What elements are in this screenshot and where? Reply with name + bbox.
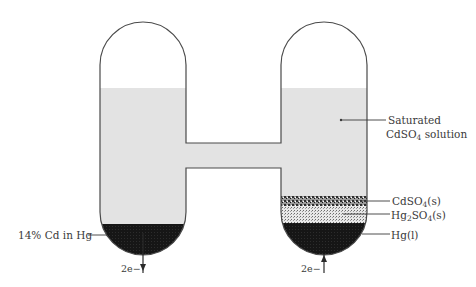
left-solution [100, 88, 186, 224]
hg2so4-solid-label: Hg2SO4(s) [391, 209, 446, 223]
saturated-label-line2: CdSO4 solution [386, 128, 467, 142]
saturated-leader-dot [340, 119, 342, 121]
mercury-liquid-label: Hg(l) [391, 229, 418, 241]
cell-diagram: Saturated CdSO4 solution CdSO4(s) Hg2SO4… [0, 0, 476, 287]
right-solution [281, 88, 367, 196]
right-tube-contents [281, 88, 367, 263]
right-electron-label: 2e− [301, 263, 321, 274]
connector-solution [185, 143, 282, 168]
cdso4-solid-label: CdSO4(s) [392, 195, 441, 209]
amalgam-label: 14% Cd in Hg [18, 229, 92, 241]
hg2so4-solid-layer [281, 206, 367, 223]
cdso4-solid-layer [281, 196, 367, 206]
saturated-label-line1: Saturated [388, 114, 441, 126]
right-electron-arrow [321, 254, 327, 273]
left-electron-label: 2e− [121, 263, 141, 274]
